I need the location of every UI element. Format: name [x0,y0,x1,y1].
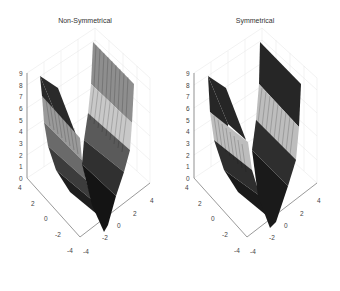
svg-text:2: 2 [19,152,23,159]
svg-text:0: 0 [117,222,121,229]
svg-text:0: 0 [284,222,288,229]
svg-text:-2: -2 [55,231,61,238]
surface-plot: 0 1 2 3 4 5 6 7 8 9 4 2 0 -2 -4 -4 [0,0,170,291]
y-axis-ticks: 4 2 0 -2 -4 [18,184,73,254]
svg-text:1: 1 [186,163,190,170]
svg-text:0: 0 [186,175,190,182]
svg-text:7: 7 [19,93,23,100]
svg-text:-2: -2 [222,231,228,238]
svg-text:4: 4 [317,197,321,204]
svg-text:8: 8 [19,82,23,89]
svg-text:6: 6 [186,105,190,112]
svg-text:1: 1 [19,163,23,170]
svg-text:2: 2 [300,210,304,217]
svg-text:-2: -2 [269,234,275,241]
svg-text:8: 8 [186,82,190,89]
svg-text:6: 6 [19,105,23,112]
panel-symmetrical: Symmetrical 0 1 [170,0,340,291]
svg-text:-2: -2 [102,234,108,241]
svg-text:0: 0 [44,215,48,222]
svg-text:-4: -4 [83,248,89,255]
surface-plot: 0 1 2 3 4 5 6 7 8 9 4 2 0 -2 -4 -4 -2 [170,0,340,291]
svg-text:5: 5 [186,117,190,124]
svg-text:2: 2 [31,200,35,207]
svg-text:-4: -4 [234,247,240,254]
z-axis-ticks: 0 1 2 3 4 5 6 7 8 9 [186,70,190,182]
svg-text:-4: -4 [250,248,256,255]
svg-text:3: 3 [186,140,190,147]
svg-text:3: 3 [19,140,23,147]
svg-text:2: 2 [186,152,190,159]
svg-text:4: 4 [186,128,190,135]
svg-text:5: 5 [19,117,23,124]
svg-text:7: 7 [186,93,190,100]
svg-text:4: 4 [185,184,189,191]
svg-text:2: 2 [198,200,202,207]
svg-text:0: 0 [211,215,215,222]
svg-text:0: 0 [19,175,23,182]
svg-text:9: 9 [186,70,190,77]
svg-text:4: 4 [19,128,23,135]
svg-text:4: 4 [18,184,22,191]
svg-text:2: 2 [133,210,137,217]
figure: Non-Symmetrical [0,0,340,291]
svg-text:-4: -4 [67,247,73,254]
z-axis-ticks: 0 1 2 3 4 5 6 7 8 9 [19,70,23,182]
svg-text:4: 4 [150,197,154,204]
svg-text:9: 9 [19,70,23,77]
panel-non-symmetrical: Non-Symmetrical [0,0,170,291]
y-axis-ticks: 4 2 0 -2 -4 [185,184,240,254]
